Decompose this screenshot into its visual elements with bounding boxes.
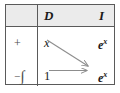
column-header-i: I — [99, 7, 104, 25]
row-1-i-exponent: x — [103, 37, 107, 46]
row-1-d-value: x — [44, 36, 50, 50]
tabular-integration-figure: D I + x ex −∫ 1 ex — [0, 0, 120, 93]
row-2-operator: −∫ — [14, 68, 36, 83]
row-2-d-value: 1 — [44, 69, 50, 83]
integral-icon: ∫ — [20, 68, 24, 84]
row-2-i-value: ex — [98, 68, 107, 85]
table-header-row — [6, 5, 114, 27]
column-divider — [37, 5, 38, 86]
row-2-i-exponent: x — [103, 70, 107, 79]
integration-table: D I + x ex −∫ 1 ex — [5, 4, 115, 85]
column-header-d: D — [44, 7, 53, 25]
row-1-i-value: ex — [98, 35, 107, 52]
row-1-operator: + — [14, 36, 36, 50]
